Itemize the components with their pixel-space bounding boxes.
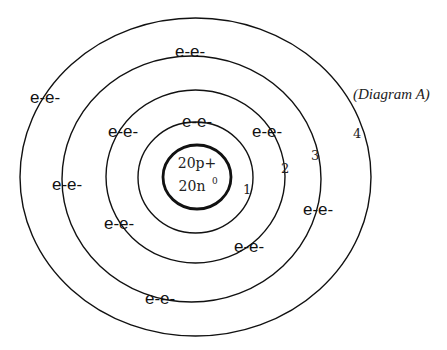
bohr-model-diagram: 20p+ 20n 0 1 2 3 4 (Diagram A) e-e- e-e-… [0, 0, 447, 350]
electron-label: e-e- [182, 112, 212, 131]
nucleus-neutrons: 20n [179, 178, 206, 194]
electron-label: e-e- [234, 237, 264, 256]
electron-label: e-e- [108, 122, 138, 141]
electron-label: e-e- [52, 175, 82, 194]
electron-label: e-e- [175, 42, 205, 61]
electron-label: e-e- [303, 200, 333, 219]
shell-2-number: 2 [281, 161, 289, 176]
shell-4-number: 4 [353, 126, 361, 141]
electron-label: e-e- [252, 122, 282, 141]
diagram-caption: (Diagram A) [353, 86, 430, 103]
shell-3-number: 3 [311, 148, 319, 163]
electron-label: e-e- [30, 88, 60, 107]
electron-label: e-e- [104, 214, 134, 233]
electron-label: e-e- [145, 289, 175, 308]
nucleus-protons: 20p+ [178, 155, 217, 171]
shell-1-number: 1 [243, 182, 251, 197]
nucleus-neutron-superscript: 0 [212, 176, 218, 186]
